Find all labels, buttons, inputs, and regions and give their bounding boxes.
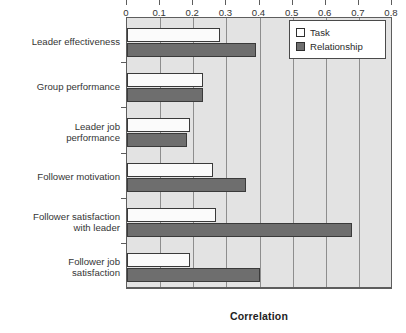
category-label: Leader effectiveness [0, 36, 120, 47]
gray-square-swatch-icon [296, 42, 305, 51]
x-axis-tick [259, 0, 260, 5]
x-axis-tick-label: 0.8 [371, 7, 406, 18]
x-axis-tick [159, 0, 160, 5]
bar-group [127, 208, 392, 244]
x-axis-title: Correlation [126, 310, 392, 322]
category-axis: Leader effectivenessGroup performanceLea… [0, 17, 120, 288]
x-axis-tick [358, 0, 359, 5]
chart-legend: Task Relationship [289, 20, 386, 59]
white-square-swatch-icon [296, 28, 305, 37]
category-label: Follower motivation [0, 171, 120, 182]
bar-relationship [127, 223, 352, 237]
bar-task [127, 73, 203, 87]
bar-group [127, 118, 392, 154]
bar-task [127, 28, 220, 42]
y-axis-tick [121, 62, 126, 63]
x-axis-tick [391, 0, 392, 5]
x-axis-tick [325, 0, 326, 5]
bar-relationship [127, 133, 187, 147]
bar-relationship [127, 268, 260, 282]
x-axis-tick [192, 0, 193, 5]
bar-group [127, 163, 392, 199]
y-axis-tick [121, 153, 126, 154]
legend-label-relationship: Relationship [310, 41, 363, 52]
legend-label-task: Task [310, 27, 330, 38]
x-axis-tick [126, 0, 127, 5]
legend-item-task: Task [296, 25, 379, 39]
category-label: Follower job satisfaction [0, 256, 120, 279]
bar-group [127, 73, 392, 109]
x-axis-tick [292, 0, 293, 5]
x-axis-line [126, 288, 392, 289]
bar-group [127, 253, 392, 289]
bar-relationship [127, 88, 203, 102]
bar-task [127, 253, 190, 267]
y-axis-tick [121, 198, 126, 199]
bar-relationship [127, 43, 256, 57]
bar-chart-figure: Leader effectivenessGroup performanceLea… [0, 0, 406, 333]
legend-item-relationship: Relationship [296, 39, 379, 53]
x-axis-tick [225, 0, 226, 5]
bar-task [127, 118, 190, 132]
category-label: Follower satisfaction with leader [0, 211, 120, 234]
y-axis-tick [121, 243, 126, 244]
bar-relationship [127, 178, 246, 192]
category-label: Group performance [0, 81, 120, 92]
bar-task [127, 163, 213, 177]
category-label: Leader job performance [0, 121, 120, 144]
y-axis-tick [121, 107, 126, 108]
bar-task [127, 208, 216, 222]
